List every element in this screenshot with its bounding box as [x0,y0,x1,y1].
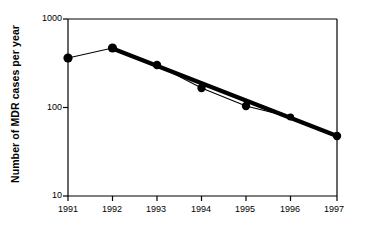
data-point-1995 [242,102,250,110]
trend-line [113,49,338,137]
data-point-1997 [333,132,341,140]
data-point-1993 [153,61,161,69]
data-point-1992 [108,43,117,52]
x-axis-ticks [68,196,337,201]
data-point-markers [63,43,341,140]
chart-container: Number of MDR cases per year 1000 100 10… [0,0,372,229]
plot-svg [0,0,372,229]
axis-frame [68,19,337,196]
data-point-1996 [287,113,294,120]
data-point-1994 [197,84,205,92]
y-axis-ticks [63,19,68,196]
data-point-1991 [63,53,72,62]
